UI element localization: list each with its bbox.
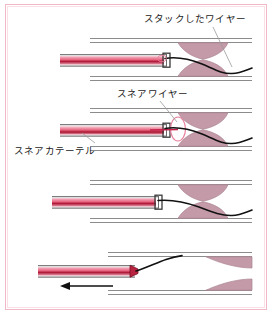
lesion-plaque-lower [206,279,252,290]
snare-catheter-shaft [52,196,158,209]
withdrawal-arrow [60,282,113,290]
vessel-upper-wall [90,39,252,43]
lesion-plaque-upper [178,185,228,201]
lesion-plaque-upper [206,257,252,268]
label-stuck-wire: スタックしたワイヤー [144,13,246,25]
diagram-canvas [0,0,272,315]
vessel-upper-wall [90,109,252,113]
vessel-lower-wall [108,291,252,295]
figure-root: スタックしたワイヤー スネアワイヤー スネアカテーテル [0,0,272,315]
panel-4 [38,253,252,295]
lesion-plaque-lower [178,202,228,218]
snare-catheter-shaft [60,54,166,67]
snare-wire-line [150,130,178,131]
leader-line-snare-wire [160,101,177,122]
vessel-lower-wall [90,219,252,223]
vessel-lower-wall [90,147,252,151]
vessel-lower-wall [90,77,252,81]
panel-3 [52,181,252,223]
vessel-upper-wall [90,181,252,185]
lesion-plaque-lower [178,60,228,76]
label-snare-wire: スネアワイヤー [117,88,188,100]
label-snare-catheter: スネアカテーテル [14,145,96,157]
captured-wire [136,256,182,271]
lesion-plaque-upper [178,43,228,59]
panel-1 [60,39,252,81]
snare-catheter-shaft [38,265,135,278]
